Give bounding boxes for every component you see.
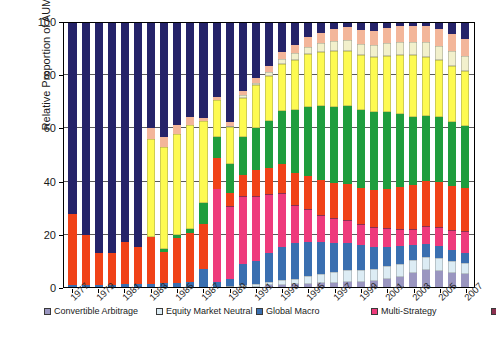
stacked-bar[interactable] xyxy=(213,23,221,287)
bar-segment xyxy=(317,43,325,52)
legend-item[interactable]: Global Macro xyxy=(256,306,371,318)
bar-segment xyxy=(199,23,207,118)
bar-segment xyxy=(409,245,417,260)
bar-segment xyxy=(357,23,365,30)
stacked-bar[interactable] xyxy=(226,23,234,287)
stacked-bar[interactable] xyxy=(68,23,76,287)
bar-segment xyxy=(461,232,469,252)
bar-segment xyxy=(160,137,168,147)
stacked-bar[interactable] xyxy=(396,23,404,287)
stacked-bar[interactable] xyxy=(147,23,155,287)
bar-segment xyxy=(265,253,273,282)
bar-segment xyxy=(265,23,273,66)
legend-label: Global Macro xyxy=(266,306,320,317)
bar-segment xyxy=(396,187,404,229)
bar-segment xyxy=(147,23,155,128)
stacked-bar[interactable] xyxy=(239,23,247,287)
stacked-bar[interactable] xyxy=(173,23,181,287)
stacked-bar[interactable] xyxy=(95,23,103,287)
bar-segment xyxy=(291,206,299,243)
stacked-bar[interactable] xyxy=(383,23,391,287)
stacked-bar[interactable] xyxy=(121,23,129,287)
stacked-bar[interactable] xyxy=(252,23,260,287)
stacked-bar[interactable] xyxy=(461,23,469,287)
bar-segment xyxy=(343,243,351,270)
y-tick-label: 0 xyxy=(28,282,56,294)
bar-segment xyxy=(304,276,312,284)
bar-segment xyxy=(448,34,456,51)
bar-segment xyxy=(147,237,155,284)
bar-segment xyxy=(239,23,247,91)
bar-segment xyxy=(448,51,456,66)
stacked-bar[interactable] xyxy=(108,23,116,287)
bar-slot xyxy=(236,23,249,287)
legend-item[interactable]: Equity Market Neutral xyxy=(156,306,256,318)
stacked-bar[interactable] xyxy=(134,23,142,287)
bar-segment xyxy=(134,247,142,284)
bar-segment xyxy=(291,243,299,279)
bar-segment xyxy=(409,55,417,117)
stacked-bar[interactable] xyxy=(409,23,417,287)
bar-segment xyxy=(317,216,325,242)
bar-segment xyxy=(435,46,443,61)
legend-item[interactable]: Dedicated Short Bias xyxy=(491,306,496,318)
bar-slot xyxy=(262,23,275,287)
bar-segment xyxy=(226,23,234,122)
stacked-bar[interactable] xyxy=(82,23,90,287)
stacked-bar[interactable] xyxy=(199,23,207,287)
bar-segment xyxy=(226,164,234,193)
bar-segment xyxy=(448,186,456,230)
bar-segment xyxy=(422,26,430,42)
bar-segment xyxy=(173,134,181,234)
stacked-bar[interactable] xyxy=(448,23,456,287)
stacked-bar[interactable] xyxy=(357,23,365,287)
bar-segment xyxy=(291,173,299,205)
bar-segment xyxy=(435,271,443,287)
bar-slot xyxy=(302,23,315,287)
bar-segment xyxy=(448,231,456,250)
stacked-bar[interactable] xyxy=(304,23,312,287)
bar-slot xyxy=(289,23,302,287)
bar-slot xyxy=(158,23,171,287)
bar-slot xyxy=(210,23,223,287)
legend-label: Equity Market Neutral xyxy=(166,306,253,317)
stacked-bar[interactable] xyxy=(317,23,325,287)
bar-segment xyxy=(409,230,417,245)
bar-slot xyxy=(341,23,354,287)
legend-swatch-icon xyxy=(256,308,263,315)
bar-segment xyxy=(435,29,443,45)
stacked-bar[interactable] xyxy=(422,23,430,287)
stacked-bar[interactable] xyxy=(265,23,273,287)
stacked-bar[interactable] xyxy=(330,23,338,287)
bar-segment xyxy=(239,137,247,174)
bar-segment xyxy=(370,112,378,190)
bar-segment xyxy=(461,56,469,72)
stacked-bar[interactable] xyxy=(291,23,299,287)
bar-segment xyxy=(435,117,443,181)
legend-label: Convertible Arbitrage xyxy=(54,306,138,317)
bar-segment xyxy=(435,60,443,117)
stacked-bar[interactable] xyxy=(435,23,443,287)
chart-figure: Relative Proportion of AUM (%) 020406080… xyxy=(0,0,496,357)
bar-slot xyxy=(367,23,380,287)
bar-segment xyxy=(330,183,338,218)
legend-item[interactable]: Convertible Arbitrage xyxy=(44,306,156,318)
bar-segment xyxy=(82,23,90,235)
bar-segment xyxy=(304,37,312,46)
bar-segment xyxy=(121,242,129,284)
stacked-bar[interactable] xyxy=(278,23,286,287)
bar-segment xyxy=(330,283,338,287)
stacked-bar[interactable] xyxy=(370,23,378,287)
bar-segment xyxy=(199,203,207,224)
stacked-bar[interactable] xyxy=(343,23,351,287)
stacked-bar[interactable] xyxy=(186,23,194,287)
bar-segment xyxy=(448,66,456,122)
bar-segment xyxy=(213,158,221,190)
bar-segment xyxy=(357,30,365,44)
legend-item[interactable]: Multi-Strategy xyxy=(371,306,491,318)
bar-slot xyxy=(66,23,79,287)
bar-segment xyxy=(396,42,404,55)
bar-slot xyxy=(223,23,236,287)
bar-segment xyxy=(330,29,338,41)
stacked-bar[interactable] xyxy=(160,23,168,287)
